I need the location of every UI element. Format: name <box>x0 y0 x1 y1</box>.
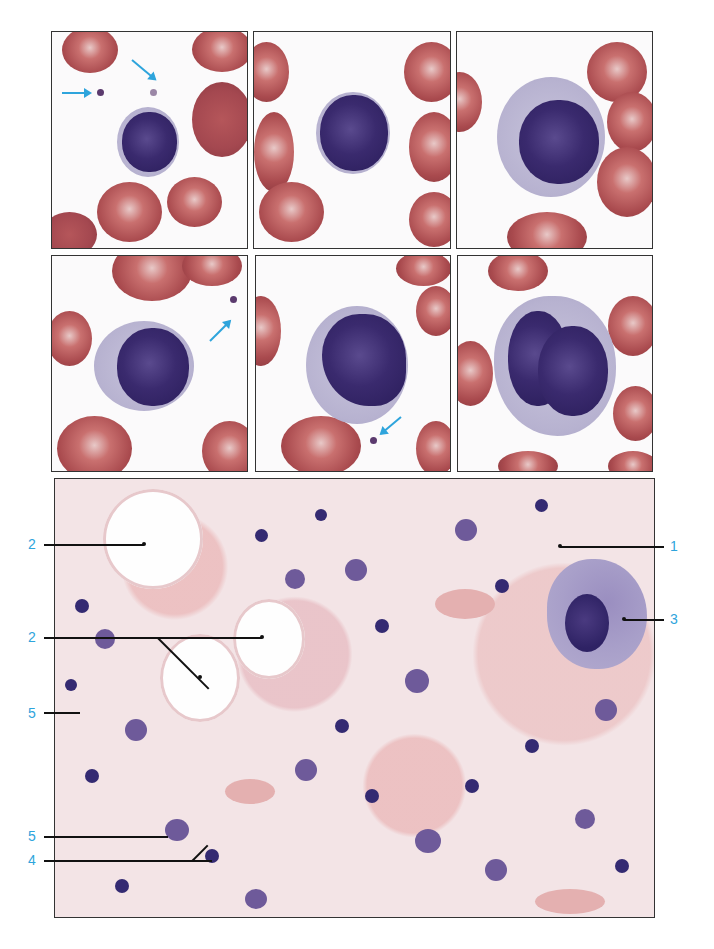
marrow-cell <box>295 759 317 781</box>
label-3: 3 <box>670 611 678 627</box>
platelet <box>370 437 377 444</box>
arrow-icon <box>209 320 230 341</box>
marrow-cell <box>535 499 548 512</box>
red-blood-cell <box>259 182 324 242</box>
smear-panel-c <box>456 31 653 249</box>
marrow-cell <box>495 579 509 593</box>
red-blood-cell <box>456 72 482 132</box>
megakaryocyte-nucleus <box>565 594 609 652</box>
red-blood-cell <box>167 177 222 227</box>
platelet <box>230 296 237 303</box>
label-1: 1 <box>670 538 678 554</box>
arrow-icon <box>131 59 155 80</box>
leader-line <box>44 860 212 862</box>
red-cell-cluster <box>535 889 605 914</box>
smear-panel-f <box>457 255 653 472</box>
leader-dot <box>558 544 562 548</box>
platelet <box>150 89 157 96</box>
marrow-cell <box>85 769 99 783</box>
leader-line <box>44 544 144 546</box>
red-blood-cell <box>192 31 248 72</box>
red-blood-cell <box>97 182 162 242</box>
red-blood-cell <box>254 112 294 192</box>
red-blood-cell <box>457 341 493 406</box>
red-blood-cell <box>51 311 92 366</box>
arrow-icon <box>62 92 90 94</box>
red-blood-cell <box>182 255 242 286</box>
platelet <box>97 89 104 96</box>
fat-vacuole <box>103 489 203 589</box>
marrow-cell <box>245 889 267 909</box>
red-blood-cell <box>57 416 132 472</box>
marrow-cell <box>375 619 389 633</box>
marrow-cell <box>365 789 379 803</box>
red-blood-cell <box>112 255 192 301</box>
marrow-cell <box>165 819 189 841</box>
marrow-cell <box>455 519 477 541</box>
red-blood-cell <box>409 192 451 247</box>
leader-line <box>560 546 664 548</box>
smear-panel-d <box>51 255 248 472</box>
red-blood-cell <box>255 296 281 366</box>
marrow-cell <box>125 719 147 741</box>
label-5-lower: 5 <box>28 828 36 844</box>
red-blood-cell <box>253 42 289 102</box>
red-blood-cell <box>62 31 118 73</box>
red-blood-cell <box>607 92 653 152</box>
marrow-cell <box>415 829 441 853</box>
red-blood-cell <box>416 286 451 336</box>
leader-line <box>44 637 262 639</box>
lymphocyte-nucleus <box>320 95 388 171</box>
red-cell-cluster <box>225 779 275 804</box>
smear-panel-e <box>255 255 451 472</box>
lymphocyte-nucleus <box>519 100 599 184</box>
marrow-cell <box>115 879 129 893</box>
marrow-cell <box>595 699 617 721</box>
leader-dot <box>622 617 626 621</box>
marrow-cell <box>75 599 89 613</box>
monocyte-nucleus <box>117 328 189 406</box>
marrow-cell <box>405 669 429 693</box>
leader-dot <box>142 542 146 546</box>
red-blood-cell <box>51 212 97 249</box>
marrow-cell <box>525 739 539 753</box>
leader-dot <box>260 635 264 639</box>
leader-line <box>44 712 80 714</box>
red-cell-cluster <box>435 589 495 619</box>
red-blood-cell <box>404 42 451 102</box>
label-2-upper: 2 <box>28 536 36 552</box>
leader-dot <box>198 675 202 679</box>
marrow-cell <box>345 559 367 581</box>
marrow-cell <box>315 509 327 521</box>
marrow-cell <box>255 529 268 542</box>
smear-panel-a <box>51 31 248 249</box>
red-blood-cell <box>597 147 653 217</box>
monocyte-nucleus <box>538 326 608 416</box>
label-5-upper: 5 <box>28 705 36 721</box>
marrow-cell <box>485 859 507 881</box>
marrow-cell <box>335 719 349 733</box>
red-blood-cell <box>608 451 653 472</box>
red-blood-cell <box>416 421 451 472</box>
lymphocyte-nucleus <box>122 112 177 172</box>
leader-line <box>44 836 168 838</box>
label-4: 4 <box>28 852 36 868</box>
marrow-cell <box>465 779 479 793</box>
red-blood-cell <box>281 416 361 472</box>
red-blood-cell <box>488 255 548 291</box>
smear-panel-b <box>253 31 451 249</box>
red-blood-cell <box>396 255 451 286</box>
red-blood-cell <box>498 451 558 472</box>
red-blood-cell <box>507 212 587 249</box>
label-2-lower: 2 <box>28 629 36 645</box>
red-blood-cell <box>202 421 248 472</box>
red-blood-cell <box>613 386 653 441</box>
marrow-cell <box>575 809 595 829</box>
red-blood-cell <box>608 296 653 356</box>
fat-vacuole <box>233 599 305 679</box>
marrow-cell <box>95 629 115 649</box>
red-blood-cell <box>409 112 451 182</box>
arrow-icon <box>380 416 401 434</box>
leader-line <box>624 619 664 621</box>
red-blood-cell <box>192 82 248 157</box>
